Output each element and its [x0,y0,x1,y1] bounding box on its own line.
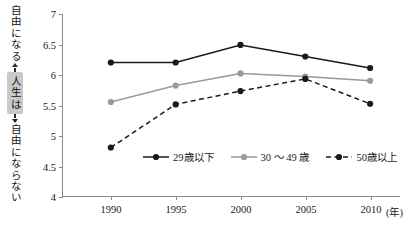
legend-label: 29歳以下 [173,149,214,164]
data-point [173,59,179,65]
x-tick-mark [111,196,112,200]
x-tick-label: 2005 [296,204,317,215]
legend-item-2: 30 ～ 49 歳 [231,149,310,164]
x-tick-label: 1990 [101,204,122,215]
x-tick-label: 1995 [166,204,187,215]
series-line-2 [111,73,370,102]
plot-area: 44.555.566.57 19901995200020052010 (年) [62,14,400,197]
y-tick-label: 4.5 [43,161,56,172]
x-tick-mark [306,196,307,200]
legend-label: 50歳以上 [356,149,397,164]
legend-item-1: 29歳以下 [143,149,214,164]
arrow-down-icon [12,119,18,123]
series-lines [63,14,400,196]
data-point [302,53,308,59]
legend-label: 30 ～ 49 歳 [261,149,310,164]
chart-figure: 自由になる 人生は 自由にならない 44.555.566.57 19901995… [0,0,410,241]
y-tick-mark [59,197,63,198]
x-tick-mark [176,196,177,200]
data-point [237,88,243,94]
y-axis-caption: 自由になる 人生は 自由にならない [2,4,28,214]
chart-legend: 29歳以下30 ～ 49 歳50歳以上 [143,149,397,164]
data-point [367,78,373,84]
legend-item-3: 50歳以上 [326,149,397,164]
legend-swatch-icon [143,152,169,162]
y-axis-caption-chip-label: 人生は [9,76,20,110]
data-point [108,99,114,105]
data-point [367,65,373,71]
y-tick-label: 5.5 [43,100,56,111]
data-point [108,144,114,150]
x-tick-mark [241,196,242,200]
x-tick-label: 2000 [231,204,252,215]
y-tick-label: 5 [51,131,56,142]
data-point [173,83,179,89]
y-axis-caption-top: 自由になる [9,5,20,62]
y-tick-label: 4 [51,192,56,203]
data-point [302,76,308,82]
series-line-1 [111,45,370,68]
data-point [173,101,179,107]
y-axis-caption-chip: 人生は [7,72,23,114]
y-tick-label: 7 [51,9,56,20]
x-tick-mark [371,196,372,200]
arrow-up-icon [12,63,18,67]
y-tick-label: 6.5 [43,39,56,50]
data-point [108,59,114,65]
legend-swatch-icon [326,152,352,162]
x-axis-unit-label: (年) [386,204,403,219]
x-tick-label: 2010 [361,204,382,215]
y-tick-label: 6 [51,70,56,81]
legend-swatch-icon [231,152,257,162]
y-axis-caption-bottom: 自由にならない [9,124,20,204]
data-point [237,70,243,76]
arrow-stem-lower [14,114,15,118]
data-point [367,101,373,107]
data-point [237,42,243,48]
